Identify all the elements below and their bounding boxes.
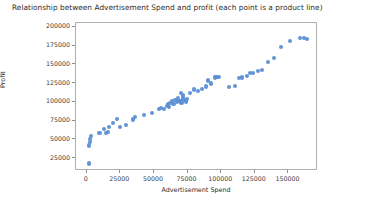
scatter-points-layer [76, 23, 316, 169]
y-tick-label: 175000 [46, 41, 70, 48]
y-tick-label: 125000 [46, 79, 70, 86]
scatter-point [87, 143, 91, 147]
scatter-chart-figure: Relationship between Advertisement Spend… [0, 0, 379, 212]
y-tick-label: 150000 [46, 60, 70, 67]
scatter-point [288, 39, 292, 43]
x-tick-mark [187, 170, 188, 173]
scatter-point [227, 85, 231, 89]
x-tick-mark [153, 170, 154, 173]
scatter-point [142, 113, 146, 117]
x-tick-label: 100000 [208, 175, 232, 182]
scatter-point [305, 37, 309, 41]
scatter-point [124, 123, 128, 127]
y-tick-label: 200000 [46, 22, 70, 29]
scatter-point [240, 75, 244, 79]
chart-title: Relationship between Advertisement Spend… [12, 3, 372, 13]
scatter-point [111, 121, 115, 125]
x-tick-mark [254, 170, 255, 173]
x-tick-mark [86, 170, 87, 173]
x-tick-label: 75000 [177, 175, 197, 182]
y-tick-label: 50000 [50, 135, 70, 142]
x-tick-label: 25000 [109, 175, 129, 182]
x-tick-label: 125000 [242, 175, 266, 182]
scatter-point [150, 111, 154, 115]
scatter-point [279, 45, 283, 49]
x-axis-label: Advertisement Spend [75, 186, 317, 194]
scatter-point [118, 125, 122, 129]
scatter-point [266, 60, 270, 64]
scatter-point [106, 130, 110, 134]
scatter-point [233, 84, 237, 88]
scatter-point [185, 97, 189, 101]
scatter-point [167, 105, 171, 109]
scatter-point [89, 134, 93, 138]
y-tick-label: 75000 [50, 116, 70, 123]
x-tick-mark [287, 170, 288, 173]
scatter-point [260, 68, 264, 72]
scatter-point [133, 115, 137, 119]
y-tick-label: 100000 [46, 97, 70, 104]
scatter-point [181, 93, 185, 97]
scatter-point [188, 91, 192, 95]
scatter-point [87, 161, 91, 165]
scatter-point [272, 56, 276, 60]
scatter-point [204, 84, 208, 88]
scatter-point [217, 75, 221, 79]
x-tick-mark [220, 170, 221, 173]
scatter-point [107, 125, 111, 129]
scatter-point [251, 71, 255, 75]
y-axis-label: Profit [0, 71, 7, 88]
scatter-point [97, 131, 101, 135]
plot-area [75, 22, 317, 170]
y-tick-label: 25000 [50, 154, 70, 161]
x-tick-mark [119, 170, 120, 173]
x-tick-label: 150000 [275, 175, 299, 182]
x-tick-label: 50000 [143, 175, 163, 182]
x-tick-label: 0 [84, 175, 88, 182]
scatter-point [115, 117, 119, 121]
scatter-point [209, 81, 213, 85]
